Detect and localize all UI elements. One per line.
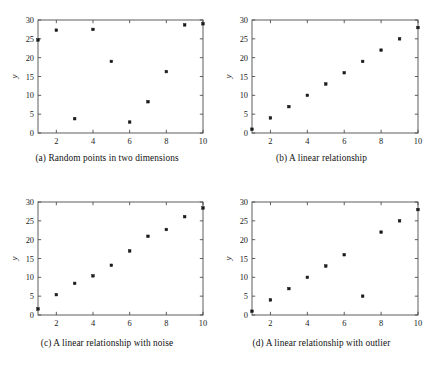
data-point — [147, 100, 150, 103]
data-point — [37, 308, 40, 311]
data-point — [361, 295, 364, 298]
x-axis-label: x — [117, 147, 123, 150]
y-tick-label: 0 — [244, 311, 248, 320]
data-point — [55, 29, 58, 32]
x-tick-label: 8 — [379, 319, 383, 328]
data-point — [183, 215, 186, 218]
data-point — [343, 253, 346, 256]
y-tick-label: 30 — [26, 198, 34, 207]
y-tick-label: 15 — [26, 73, 34, 82]
plot-frame — [38, 202, 203, 315]
data-point — [343, 71, 346, 74]
data-point-group — [37, 207, 205, 311]
x-tick-label: 4 — [305, 137, 310, 146]
x-tick-label: 10 — [199, 137, 207, 146]
data-point — [380, 231, 383, 234]
x-axis-label: x — [117, 329, 123, 332]
y-axis-label: y — [223, 74, 233, 80]
y-tick-label: 25 — [26, 35, 34, 44]
y-tick-label: 15 — [240, 73, 248, 82]
plot-svg-a: 246810051015202530xy — [0, 0, 214, 150]
plot-svg-b: 246810051015202530xy — [214, 0, 429, 150]
plot-frame — [38, 20, 203, 133]
x-tick-label: 6 — [128, 137, 132, 146]
data-point — [269, 299, 272, 302]
y-tick-label: 10 — [26, 91, 34, 100]
x-tick-label: 4 — [91, 137, 96, 146]
x-tick-label: 2 — [268, 319, 272, 328]
x-tick-label: 6 — [342, 137, 346, 146]
x-tick-label: 8 — [379, 137, 383, 146]
y-tick-label: 0 — [244, 129, 248, 138]
data-point — [92, 28, 95, 31]
data-point — [398, 38, 401, 41]
y-tick-label: 20 — [240, 236, 248, 245]
y-axis-label: y — [223, 256, 233, 262]
y-tick-label: 25 — [26, 217, 34, 226]
y-axis-label: y — [9, 256, 19, 262]
y-tick-label: 20 — [240, 54, 248, 63]
x-tick-label: 2 — [54, 137, 58, 146]
y-tick-label: 0 — [30, 311, 34, 320]
data-point-group — [251, 26, 420, 130]
y-tick-label: 5 — [244, 110, 248, 119]
data-point — [55, 293, 58, 296]
x-tick-label: 2 — [268, 137, 272, 146]
data-point — [361, 60, 364, 63]
data-point — [288, 287, 291, 290]
x-tick-label: 4 — [305, 319, 310, 328]
y-tick-label: 30 — [26, 16, 34, 25]
data-point — [251, 310, 254, 313]
plot-svg-c: 246810051015202530xy — [0, 182, 214, 332]
data-point — [73, 117, 76, 120]
data-point — [165, 228, 168, 231]
data-point — [306, 276, 309, 279]
y-tick-label: 5 — [30, 292, 34, 301]
scatter-plot-b: 246810051015202530xy — [214, 0, 429, 150]
data-point — [73, 282, 76, 285]
data-point — [128, 121, 131, 124]
panel-caption-d: (d) A linear relationship with outlier — [214, 337, 429, 349]
data-point — [251, 128, 254, 131]
data-point — [147, 235, 150, 238]
panel-b: 246810051015202530xy (b) A linear relati… — [214, 0, 429, 182]
x-tick-label: 2 — [54, 319, 58, 328]
x-tick-label: 6 — [128, 319, 132, 328]
panel-d: 246810051015202530xy (d) A linear relati… — [214, 182, 429, 367]
data-point — [380, 49, 383, 52]
data-point — [110, 264, 113, 267]
data-point — [183, 24, 186, 27]
y-tick-label: 10 — [240, 91, 248, 100]
data-point-group — [251, 208, 420, 312]
panel-caption-b: (b) A linear relationship — [214, 152, 429, 164]
plot-svg-d: 246810051015202530xy — [214, 182, 429, 332]
y-tick-label: 20 — [26, 54, 34, 63]
panel-a: 246810051015202530xy (a) Random points i… — [0, 0, 214, 182]
data-point — [417, 208, 420, 211]
data-point — [417, 26, 420, 29]
data-point — [92, 275, 95, 278]
data-point-group — [37, 22, 205, 123]
y-tick-label: 15 — [26, 255, 34, 264]
scatter-plot-a: 246810051015202530xy — [0, 0, 214, 150]
y-tick-label: 30 — [240, 198, 248, 207]
x-tick-label: 10 — [199, 319, 207, 328]
x-axis-label: x — [332, 147, 338, 150]
data-point — [202, 22, 205, 25]
panel-caption-a: (a) Random points in two dimensions — [0, 152, 214, 164]
data-point — [324, 265, 327, 268]
data-point — [165, 70, 168, 73]
plot-frame — [252, 20, 418, 133]
scatter-plot-d: 246810051015202530xy — [214, 182, 429, 332]
data-point — [288, 105, 291, 108]
y-tick-label: 25 — [240, 35, 248, 44]
panel-caption-c: (c) A linear relationship with noise — [0, 337, 214, 349]
y-tick-label: 0 — [30, 129, 34, 138]
plot-frame — [252, 202, 418, 315]
x-tick-label: 8 — [164, 319, 168, 328]
y-tick-label: 5 — [244, 292, 248, 301]
x-axis-label: x — [332, 329, 338, 332]
y-tick-label: 10 — [26, 273, 34, 282]
scatter-plot-c: 246810051015202530xy — [0, 182, 214, 332]
y-axis-label: y — [9, 74, 19, 80]
